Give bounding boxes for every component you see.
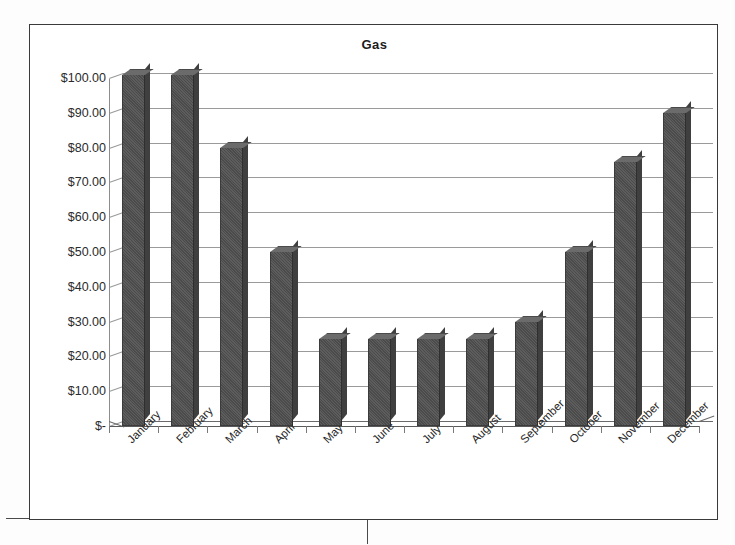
floor-right-edge <box>699 421 713 426</box>
bar-side-facet <box>489 327 494 420</box>
x-axis-tick <box>601 426 602 433</box>
bar-front-facet <box>368 339 391 426</box>
gridline <box>123 73 713 74</box>
bar-side-facet <box>538 310 543 420</box>
bar <box>466 339 489 426</box>
bar <box>663 113 686 426</box>
y-axis-tick-label: $- <box>28 419 106 433</box>
bar-front-facet <box>417 339 440 426</box>
bar-front-facet <box>270 252 293 426</box>
x-axis-tick <box>552 426 553 433</box>
plot-area: $-$10.00$20.00$30.00$40.00$50.00$60.00$7… <box>30 25 719 521</box>
x-axis-tick <box>355 426 356 433</box>
x-axis-tick <box>502 426 503 433</box>
gridline <box>123 108 713 109</box>
y-axis-tick-label: $80.00 <box>28 141 106 155</box>
bar <box>319 339 342 426</box>
bar <box>417 339 440 426</box>
bar-side-facet <box>194 63 199 420</box>
y-axis-line <box>109 79 110 427</box>
bar-front-facet <box>466 339 489 426</box>
bar <box>122 75 145 426</box>
bar-front-facet <box>319 339 342 426</box>
bar-front-facet <box>515 322 538 426</box>
bar-side-facet <box>243 136 248 420</box>
bar-front-facet <box>663 113 686 426</box>
bar-side-facet <box>637 150 642 420</box>
x-axis-tick <box>699 426 700 433</box>
y-axis-tick-label: $30.00 <box>28 315 106 329</box>
x-axis-tick <box>158 426 159 433</box>
page-bottom-tick-mark <box>367 518 368 544</box>
y-axis-tick-label: $90.00 <box>28 106 106 120</box>
y-axis-tick-label: $60.00 <box>28 210 106 224</box>
bar-front-facet <box>220 148 243 426</box>
bar-front-facet <box>171 75 194 426</box>
x-axis-tick <box>257 426 258 433</box>
bar-front-facet <box>565 252 588 426</box>
chart-frame: Gas $-$10.00$20.00$30.00$40.00$50.00$60.… <box>29 24 718 520</box>
bar <box>614 162 637 426</box>
y-axis-tick-label: $20.00 <box>28 349 106 363</box>
bar-side-facet <box>440 327 445 420</box>
x-axis-tick <box>404 426 405 433</box>
y-axis-tick-label: $50.00 <box>28 245 106 259</box>
y-axis-tick-label: $10.00 <box>28 384 106 398</box>
bar-side-facet <box>145 63 150 420</box>
x-axis-tick <box>207 426 208 433</box>
x-axis-tick <box>306 426 307 433</box>
bar <box>565 252 588 426</box>
bar <box>220 148 243 426</box>
y-axis-tick-label: $70.00 <box>28 175 106 189</box>
bar <box>171 75 194 426</box>
y-axis-tick-label: $100.00 <box>28 71 106 85</box>
bar-side-facet <box>293 240 298 420</box>
bar <box>368 339 391 426</box>
bar-side-facet <box>391 327 396 420</box>
gridline <box>123 143 713 144</box>
bar-front-facet <box>614 162 637 426</box>
bar-front-facet <box>122 75 145 426</box>
y-axis-labels: $-$10.00$20.00$30.00$40.00$50.00$60.00$7… <box>30 25 106 521</box>
y-axis-tick-label: $40.00 <box>28 280 106 294</box>
x-axis-tick <box>453 426 454 433</box>
x-axis-tick <box>650 426 651 433</box>
bar-side-facet <box>686 101 691 420</box>
bar-side-facet <box>342 327 347 420</box>
bar-side-facet <box>588 240 593 420</box>
x-axis-tick <box>109 426 110 433</box>
bar <box>515 322 538 426</box>
bar <box>270 252 293 426</box>
